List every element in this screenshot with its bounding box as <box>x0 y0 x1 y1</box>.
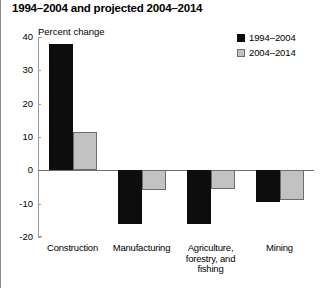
y-tick-label--20: -20 <box>1 231 33 242</box>
category-label-2: Agriculture, forestry, and fishing <box>176 243 245 275</box>
bar-0-series-1 <box>73 132 97 170</box>
chart-title: 1994–2004 and projected 2004–2014 <box>12 2 202 14</box>
y-tick-label-20: 20 <box>1 98 33 109</box>
y-tick-30 <box>38 70 41 71</box>
y-tick-20 <box>38 104 41 105</box>
y-tick-label--10: -10 <box>1 198 33 209</box>
y-tick-10 <box>38 137 41 138</box>
category-label-3: Mining <box>245 243 314 254</box>
bar-1-series-1 <box>142 170 166 190</box>
category-label-0: Construction <box>38 243 107 254</box>
y-tick-40 <box>38 37 41 38</box>
bar-0-series-0 <box>49 44 73 171</box>
chart-figure: 1994–2004 and projected 2004–2014 Percen… <box>0 0 321 288</box>
category-label-1: Manufacturing <box>107 243 176 254</box>
y-tick-label-0: 0 <box>1 164 33 175</box>
plot-area <box>38 37 314 237</box>
y-tick-label-30: 30 <box>1 64 33 75</box>
y-tick-label-10: 10 <box>1 131 33 142</box>
bar-2-series-0 <box>187 170 211 223</box>
bar-1-series-0 <box>118 170 142 223</box>
bar-3-series-1 <box>280 170 304 200</box>
y-tick-label-40: 40 <box>1 31 33 42</box>
bar-2-series-1 <box>211 170 235 188</box>
bar-3-series-0 <box>256 170 280 202</box>
y-tick--10 <box>38 204 41 205</box>
y-tick--20 <box>38 237 41 238</box>
y-axis-unit-label: Percent change <box>38 26 105 37</box>
